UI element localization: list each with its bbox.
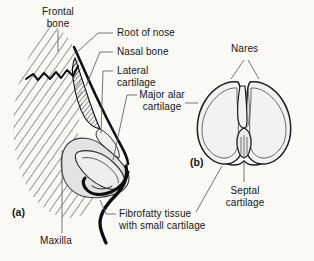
label-maxilla: Maxilla <box>40 235 72 247</box>
label-septal-cartilage: Septal cartilage <box>218 185 272 208</box>
label-root-of-nose: Root of nose <box>117 27 175 39</box>
alar-cartilage-right <box>245 82 291 164</box>
label-nares: Nares <box>231 43 258 55</box>
nose-anatomy-figure: Frontal bone Root of nose Nasal bone Lat… <box>0 0 314 261</box>
label-lateral-cartilage: Lateral cartilage <box>117 65 156 88</box>
label-nasal-bone: Nasal bone <box>117 46 169 58</box>
label-frontal-bone: Frontal bone <box>34 6 82 29</box>
label-major-alar-cartilage: Major alar cartilage <box>133 89 191 112</box>
alar-cartilage-left <box>197 82 243 164</box>
panel-marker-b: (b) <box>190 157 204 169</box>
panel-marker-a: (a) <box>12 207 25 219</box>
septal-cartilage-shape <box>237 128 251 158</box>
label-fibrofatty-tissue: Fibrofatty tissue with small cartilage <box>119 208 205 231</box>
